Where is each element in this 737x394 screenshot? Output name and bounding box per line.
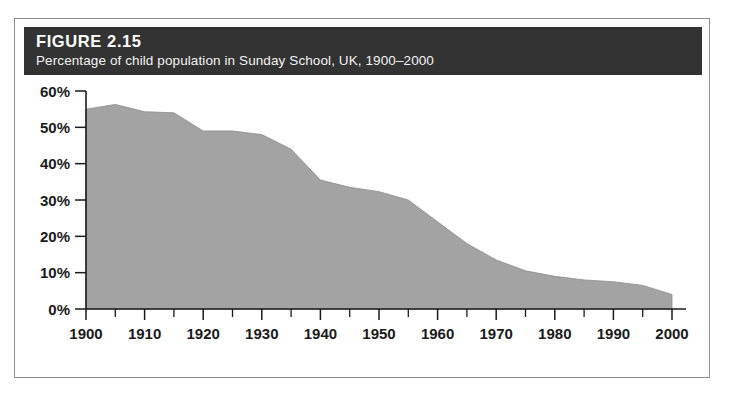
area-series-shape	[86, 104, 672, 309]
x-tick-label: 1910	[128, 325, 161, 342]
y-tick-label: 40%	[40, 155, 70, 172]
y-tick-label: 30%	[40, 192, 70, 209]
y-tick-label: 60%	[40, 83, 70, 100]
y-axis-ticks	[75, 91, 86, 309]
x-tick-label: 1940	[304, 325, 337, 342]
figure-subtitle: Percentage of child population in Sunday…	[36, 51, 690, 70]
x-tick-label: 1970	[480, 325, 513, 342]
y-axis-tick-labels: 0%10%20%30%40%50%60%	[40, 83, 70, 318]
x-tick-label: 1900	[69, 325, 102, 342]
x-tick-label: 1980	[538, 325, 571, 342]
figure-frame: FIGURE 2.15 Percentage of child populati…	[14, 18, 710, 378]
x-tick-label: 1930	[245, 325, 278, 342]
area-series-group	[86, 104, 672, 309]
x-tick-label: 2000	[655, 325, 688, 342]
y-tick-label: 0%	[48, 301, 70, 318]
x-tick-label: 1920	[187, 325, 220, 342]
x-tick-label: 1960	[421, 325, 454, 342]
x-axis-ticks	[86, 309, 672, 320]
x-tick-label: 1950	[362, 325, 395, 342]
figure-number-label: FIGURE 2.15	[36, 32, 690, 51]
y-tick-label: 20%	[40, 228, 70, 245]
x-tick-label: 1990	[597, 325, 630, 342]
chart-plot-area: 0%10%20%30%40%50%60% 1900191019201930194…	[24, 77, 702, 369]
y-tick-label: 10%	[40, 264, 70, 281]
x-axis-tick-labels: 1900191019201930194019501960197019801990…	[69, 325, 688, 342]
y-tick-label: 50%	[40, 119, 70, 136]
area-chart-svg: 0%10%20%30%40%50%60% 1900191019201930194…	[24, 77, 702, 369]
figure-header-bar: FIGURE 2.15 Percentage of child populati…	[24, 27, 702, 75]
